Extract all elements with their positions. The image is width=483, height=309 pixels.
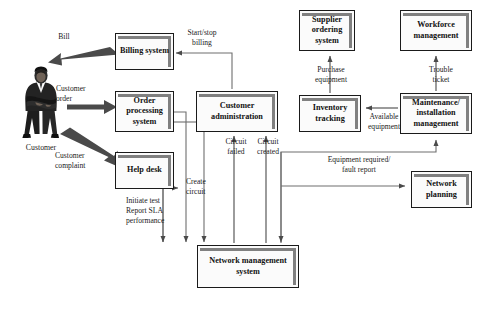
box-customer-administration[interactable]: Customer administration <box>196 91 278 132</box>
diagram-canvas: Billing system Order processing system H… <box>0 0 483 309</box>
box-label: Inventory tracking <box>300 103 360 124</box>
box-label: Supplier ordering system <box>300 15 354 47</box>
box-network-management-system[interactable]: Network management system <box>197 245 299 288</box>
box-label: Help desk <box>123 165 166 176</box>
label-available-equipment: Available equipment <box>360 112 408 132</box>
person-businessman-icon <box>15 66 67 142</box>
arrow-bill <box>48 47 119 66</box>
label-bill: Bill <box>44 32 84 42</box>
box-workforce-management[interactable]: Workforce management <box>400 10 472 51</box>
label-start-stop-billing: Start/stop billing <box>178 28 226 48</box>
box-network-planning[interactable]: Network planning <box>411 171 472 208</box>
label-customer-actor: Customer <box>10 143 72 152</box>
label-trouble-ticket: Trouble ticket <box>419 65 463 85</box>
box-label: Workforce management <box>401 20 471 41</box>
label-circuit-created: Circuit created <box>252 137 284 157</box>
box-label: Maintenance/ installation management <box>401 98 471 130</box>
connector-start-stop-billing <box>176 53 232 89</box>
box-label: Billing system <box>116 46 173 57</box>
box-supplier-ordering-system[interactable]: Supplier ordering system <box>299 10 355 51</box>
box-billing-system[interactable]: Billing system <box>115 33 174 70</box>
label-purchase-equipment: Purchase equipment <box>304 65 358 85</box>
label-customer-order: Customer order <box>56 84 108 104</box>
box-label: Network planning <box>412 179 471 200</box>
label-circuit-failed: Circuit failed <box>221 137 251 157</box>
label-equipment-required-fault-report: Equipment required/ fault report <box>313 155 405 175</box>
box-maintenance-installation-management[interactable]: Maintenance/ installation management <box>400 93 472 134</box>
label-create-circuit: Create circuit <box>186 177 216 197</box>
box-label: Network management system <box>198 256 298 277</box>
box-label: Order processing system <box>116 96 173 128</box>
label-initiate-test-report-sla: Initiate test Report SLA performance <box>126 196 188 226</box>
box-label: Customer administration <box>197 101 277 122</box>
label-customer-complaint: Customer complaint <box>55 151 109 171</box>
box-help-desk[interactable]: Help desk <box>115 152 174 189</box>
box-order-processing-system[interactable]: Order processing system <box>115 91 174 132</box>
box-inventory-tracking[interactable]: Inventory tracking <box>299 95 361 132</box>
